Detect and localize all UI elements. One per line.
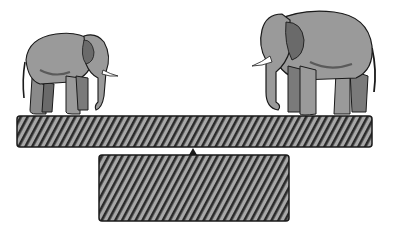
seesaw-diagram	[0, 0, 402, 242]
seesaw-plank	[17, 116, 372, 147]
right-elephant	[252, 11, 375, 115]
fulcrum-triangle	[189, 148, 197, 155]
left-elephant	[23, 33, 118, 114]
seesaw-base	[99, 155, 289, 221]
